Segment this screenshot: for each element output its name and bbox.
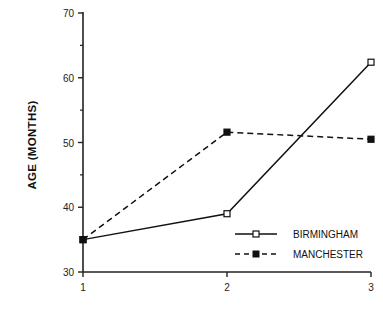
legend-label-birmingham: BIRMINGHAM (293, 229, 358, 240)
y-tick-label: 40 (63, 202, 75, 213)
open-square-marker-icon (368, 59, 374, 65)
y-tick-label: 30 (63, 267, 75, 278)
y-tick-label: 50 (63, 138, 75, 149)
x-tick-label: 3 (368, 282, 374, 293)
y-tick-label: 70 (63, 8, 75, 19)
legend-item-manchester: MANCHESTER (235, 249, 363, 260)
data-series (80, 59, 374, 242)
series-birmingham (80, 59, 374, 242)
filled-square-marker-icon (368, 136, 374, 142)
line-chart: AGE (MONTHS) 3040506070 123 BIRMINGHAM M… (0, 0, 383, 315)
x-tick-label: 2 (224, 282, 230, 293)
legend-open-square-icon (253, 231, 259, 237)
legend: BIRMINGHAM MANCHESTER (235, 229, 363, 260)
legend-label-manchester: MANCHESTER (293, 249, 363, 260)
legend-item-birmingham: BIRMINGHAM (235, 229, 358, 240)
series-manchester (80, 129, 374, 242)
legend-filled-square-icon (253, 251, 259, 257)
filled-square-marker-icon (224, 129, 230, 135)
y-tick-label: 60 (63, 73, 75, 84)
filled-square-marker-icon (80, 237, 86, 243)
open-square-marker-icon (224, 211, 230, 217)
y-axis-title: AGE (MONTHS) (26, 100, 38, 189)
x-axis-ticks: 123 (80, 272, 374, 293)
series-line (83, 132, 371, 239)
x-tick-label: 1 (80, 282, 86, 293)
